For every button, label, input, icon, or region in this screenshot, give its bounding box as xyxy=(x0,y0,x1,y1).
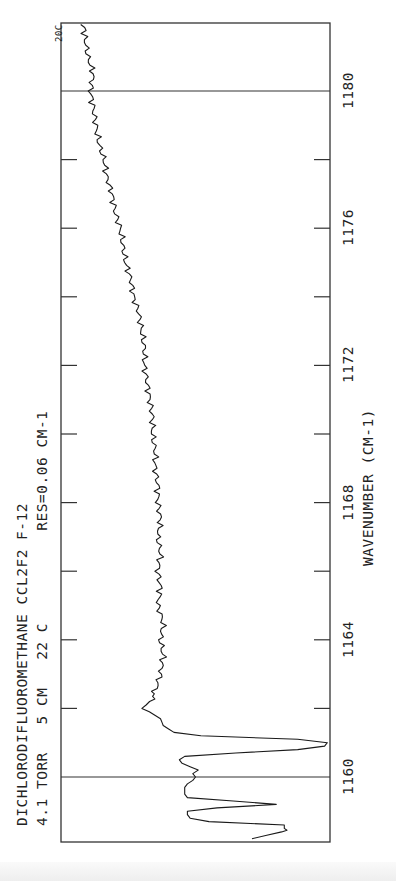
tick-label: 1180 xyxy=(340,72,356,109)
tick-label: 1176 xyxy=(340,209,356,246)
tick-label: 1168 xyxy=(340,484,356,521)
plot-frame xyxy=(61,23,330,842)
spectrum-chart xyxy=(0,0,396,881)
corner-label: 20C xyxy=(54,24,64,42)
axis-ticks xyxy=(61,160,330,709)
reference-lines xyxy=(61,91,330,777)
scan-edge xyxy=(0,862,396,881)
title-line-1: DICHLORODIFLUOROMETHANE CCL2F2 F-12 xyxy=(14,503,30,826)
tick-label: 1172 xyxy=(340,346,356,383)
x-axis-label: WAVENUMBER (CM-1) xyxy=(360,409,376,566)
tick-label: 1164 xyxy=(340,621,356,658)
title-line-2: 4.1 TORR 5 CM 22 C RES=0.06 CM-1 xyxy=(34,411,50,826)
tick-label: 1160 xyxy=(340,758,356,795)
spectrum-trace xyxy=(81,25,328,839)
